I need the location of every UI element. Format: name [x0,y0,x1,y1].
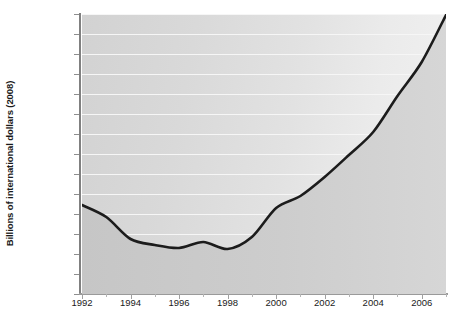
x-tick-mark [82,294,83,299]
y-tick-mark [74,34,79,35]
y-tick-mark [74,94,79,95]
x-tick-mark-minor [106,294,107,297]
x-tick-mark-minor [446,294,447,297]
x-tick-mark-minor [203,294,204,297]
y-axis-line [79,13,81,295]
x-tick-mark [179,294,180,299]
y-tick-mark [74,294,79,295]
y-tick-mark [74,174,79,175]
y-axis-title: Billions of international dollars (2008) [0,0,18,327]
y-tick-mark [74,234,79,235]
x-tick-mark [131,294,132,299]
y-tick-mark [74,134,79,135]
y-tick-mark [74,154,79,155]
x-tick-mark-minor [397,294,398,297]
y-tick-mark [74,194,79,195]
chart-container: Billions of international dollars (2008)… [0,0,470,327]
y-tick-mark [74,54,79,55]
x-tick-mark [276,294,277,299]
x-tick-mark [228,294,229,299]
x-tick-mark-minor [300,294,301,297]
y-tick-mark [74,214,79,215]
x-tick-mark [422,294,423,299]
x-tick-mark [373,294,374,299]
x-tick-mark [325,294,326,299]
y-tick-mark [74,114,79,115]
y-tick-mark [74,14,79,15]
x-tick-mark-minor [155,294,156,297]
series-area-fill [82,15,446,294]
y-tick-mark [74,74,79,75]
x-tick-mark-minor [349,294,350,297]
data-series-line [82,14,446,294]
y-tick-mark [74,254,79,255]
y-tick-mark [74,274,79,275]
x-tick-mark-minor [252,294,253,297]
plot-area [82,14,446,294]
